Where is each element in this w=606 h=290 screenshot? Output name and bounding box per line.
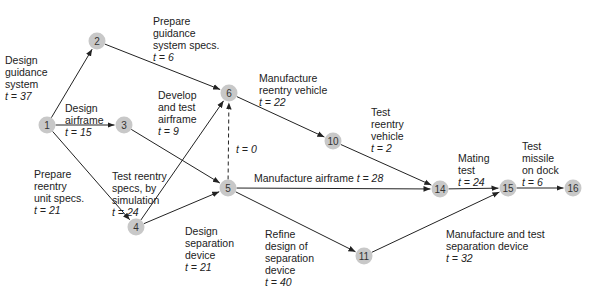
label-test-reentry-specs: Test reentry specs, by simulationt = 24 [112, 170, 167, 218]
node-2: 2 [89, 33, 106, 50]
svg-text:3: 3 [121, 120, 127, 131]
svg-text:1: 1 [44, 120, 50, 131]
label-manufacture-reentry-vehicle: Manufacture reentry vehiclet = 22 [259, 72, 327, 108]
node-1: 1 [39, 117, 56, 134]
node-5: 5 [220, 180, 237, 197]
edge-14-15 [448, 188, 498, 189]
pert-network-diagram: 1234561011141516 Design guidance systemt… [0, 0, 606, 290]
svg-text:16: 16 [567, 183, 579, 194]
svg-text:15: 15 [502, 183, 514, 194]
node-14: 14 [432, 181, 449, 198]
svg-text:6: 6 [226, 88, 232, 99]
label-prepare-guidance-system-specs: Prepare guidance system specs.t = 6 [153, 15, 220, 63]
label-design-guidance-system: Design guidance systemt = 37 [5, 54, 48, 102]
node-15: 15 [500, 180, 517, 197]
svg-text:10: 10 [327, 136, 339, 147]
svg-text:2: 2 [94, 36, 100, 47]
label-test-missile-on-dock: Test missile on dockt = 6 [522, 140, 559, 188]
svg-text:11: 11 [359, 251, 370, 262]
label-develop-test-airframe: Develop and test airframet = 9 [158, 89, 197, 137]
node-4: 4 [128, 219, 145, 236]
label-test-reentry-vehicle: Test reentry vehiclet = 2 [371, 106, 404, 154]
edge-5-14 [236, 188, 430, 189]
label-refine-design-separation-device: Refine design of separation devicet = 40 [265, 228, 314, 288]
node-6: 6 [221, 85, 238, 102]
edge-5-6 [228, 102, 229, 179]
label-mating-test: Mating testt = 24 [458, 152, 490, 188]
node-16: 16 [565, 180, 582, 197]
label-manufacture-test-separation-device: Manufacture and test separation devicet … [446, 228, 545, 264]
label-manufacture-airframe: Manufacture airframe t = 28 [254, 172, 383, 184]
svg-text:5: 5 [225, 183, 231, 194]
label-dummy-activity: t = 0 [236, 143, 257, 155]
svg-text:14: 14 [434, 184, 446, 195]
label-design-separation-device: Design separation devicet = 21 [185, 225, 234, 273]
node-10: 10 [325, 133, 342, 150]
label-design-airframe: Design airframet = 15 [65, 102, 104, 138]
node-11: 11 [356, 248, 373, 265]
node-3: 3 [116, 117, 133, 134]
label-prepare-reentry-unit-specs: Prepare reentry unit specs.t = 21 [34, 168, 84, 216]
svg-text:4: 4 [133, 222, 139, 233]
